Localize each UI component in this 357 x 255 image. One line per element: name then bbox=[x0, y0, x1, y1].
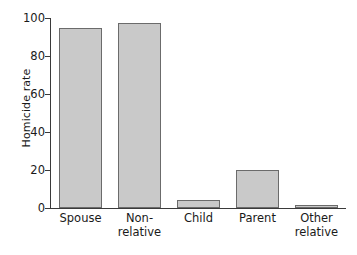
x-axis-tick-label-line: Child bbox=[184, 211, 213, 225]
y-axis-tick-label: 20 bbox=[22, 163, 45, 177]
x-axis-tick-label-line: relative bbox=[110, 225, 169, 239]
x-axis-line bbox=[50, 208, 346, 209]
bar-chart-figure: Homicide rate 020406080100 SpouseNon-rel… bbox=[0, 0, 357, 255]
bar bbox=[177, 200, 219, 208]
x-axis-tick-label: Parent bbox=[228, 211, 287, 225]
bar bbox=[236, 170, 278, 208]
y-axis-tick-label: 80 bbox=[22, 49, 45, 63]
x-axis-tick-label-line: relative bbox=[287, 225, 346, 239]
x-axis-tick-label-line: Spouse bbox=[60, 211, 102, 225]
x-axis-tick-label: Child bbox=[169, 211, 228, 225]
x-axis-tick-labels: SpouseNon-relativeChildParentOtherrelati… bbox=[51, 211, 346, 255]
x-axis-tick-label-line: Parent bbox=[239, 211, 276, 225]
bar bbox=[295, 205, 337, 208]
y-axis-tick-labels: 020406080100 bbox=[22, 0, 45, 255]
x-axis-tick-label-line: Other bbox=[300, 211, 333, 225]
x-axis-tick-label: Spouse bbox=[51, 211, 110, 225]
y-axis-tick-label: 100 bbox=[22, 11, 45, 25]
bar bbox=[59, 28, 101, 209]
x-axis-tick-label: Otherrelative bbox=[287, 211, 346, 239]
y-axis-tick-label: 0 bbox=[22, 201, 45, 215]
x-axis-tick-label-line: Non- bbox=[126, 211, 153, 225]
y-axis-tick-label: 40 bbox=[22, 125, 45, 139]
x-axis-tick-label: Non-relative bbox=[110, 211, 169, 239]
bar bbox=[118, 23, 160, 208]
plot-area bbox=[51, 18, 346, 208]
y-axis-tick-label: 60 bbox=[22, 87, 45, 101]
